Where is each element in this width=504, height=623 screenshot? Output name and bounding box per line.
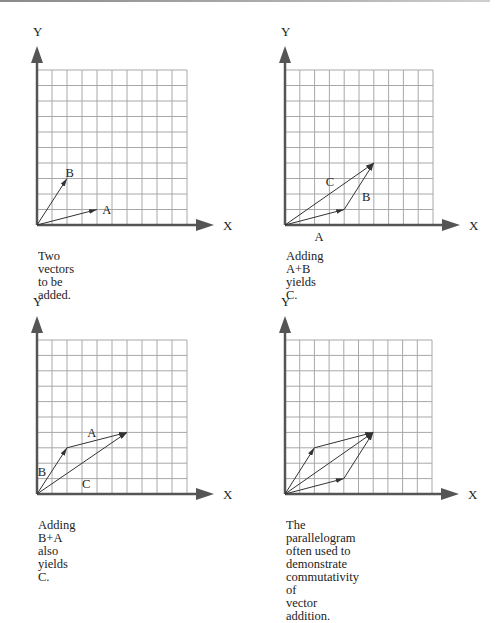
x-axis-label: X <box>468 487 478 502</box>
y-axis-arrow-icon <box>279 316 291 333</box>
caption-panel-4: The parallelogram often used to demonstr… <box>286 519 359 623</box>
grid <box>285 340 432 494</box>
axes: YX <box>279 294 478 502</box>
y-axis-label: Y <box>281 294 291 309</box>
x-axis-arrow-icon <box>441 488 459 500</box>
